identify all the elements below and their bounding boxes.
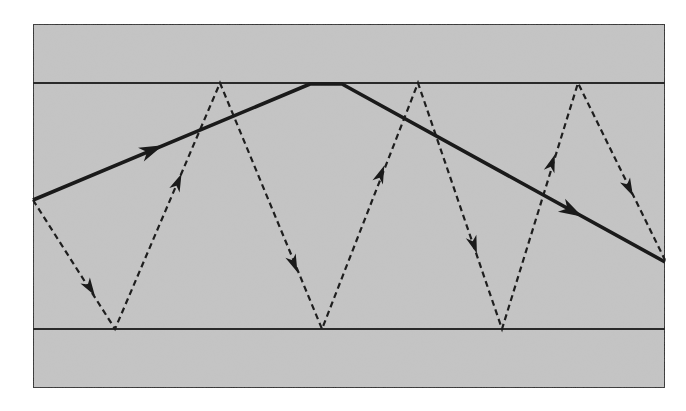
waveguide-diagram [0, 0, 686, 411]
